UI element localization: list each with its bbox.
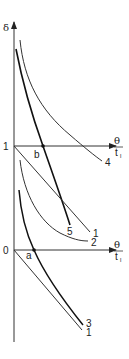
- diagram-canvas: δ 1 θ t l 0 θ t l 4 5 b 1 2 3 a 1: [0, 0, 129, 359]
- x-axis-1-label-den: t: [115, 147, 118, 158]
- level-1-label: 1: [3, 141, 9, 152]
- x-axis-0-label-den: t: [115, 251, 118, 262]
- curve-4: [20, 40, 102, 161]
- curve-5: [16, 49, 70, 225]
- x-axis-1-label-sub: l: [120, 153, 121, 159]
- curve-2: [20, 160, 88, 241]
- level-0-label: 0: [3, 245, 9, 256]
- curve-1-upper: [14, 146, 90, 232]
- x-axis-0-label-num: θ: [114, 239, 120, 250]
- curve-5-label: 5: [67, 226, 73, 237]
- y-axis-label: δ: [3, 22, 9, 33]
- x-axis-0-label-sub: l: [120, 257, 121, 263]
- curve-1-lower-label: 1: [86, 327, 92, 338]
- point-a-label: a: [26, 250, 32, 261]
- curve-1-lower: [14, 250, 82, 330]
- x-axis-1-label-num: θ: [114, 135, 120, 146]
- point-b: [41, 144, 45, 148]
- curve-2-label: 2: [91, 237, 97, 248]
- curve-4-label: 4: [105, 157, 111, 168]
- point-b-label: b: [34, 149, 40, 160]
- point-a: [32, 248, 36, 252]
